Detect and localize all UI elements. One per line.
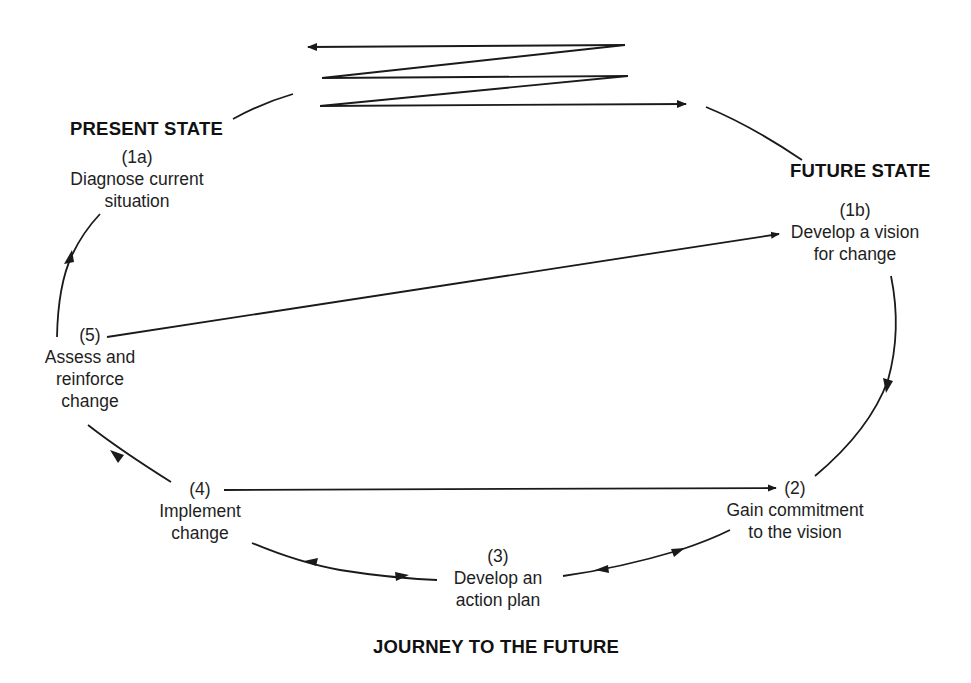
step-label-line: change: [150, 522, 250, 544]
arrow-5-to-1b: [107, 234, 779, 337]
step-1b-vision: (1b) Develop a vision for change: [780, 199, 930, 265]
journey-heading: JOURNEY TO THE FUTURE: [373, 636, 619, 658]
arc-1b-to-2: [815, 276, 896, 476]
arrowhead-icon: [671, 548, 685, 557]
step-5-assess: (5) Assess and reinforce change: [30, 324, 150, 412]
zigzag-transition-arrow: [308, 45, 686, 106]
arc-3-to-2: [563, 530, 730, 576]
step-label-line: Develop a vision: [780, 221, 930, 243]
future-state-heading: FUTURE STATE: [790, 160, 930, 182]
arc-4-to-3: [252, 543, 437, 580]
arrow-4-to-2: [224, 488, 776, 490]
step-label-line: for change: [780, 243, 930, 265]
step-2-commitment: (2) Gain commitment to the vision: [715, 477, 875, 543]
present-state-connector: [233, 94, 293, 119]
step-label-line: Diagnose current: [62, 168, 212, 190]
step-label-line: Develop an: [438, 567, 558, 589]
present-state-heading: PRESENT STATE: [70, 118, 223, 140]
step-label-line: to the vision: [715, 521, 875, 543]
step-3-action-plan: (3) Develop an action plan: [438, 545, 558, 611]
arc-4-to-5: [88, 425, 171, 482]
arrowhead-icon: [395, 572, 409, 581]
step-number: (1b): [780, 199, 930, 221]
step-4-implement: (4) Implement change: [150, 478, 250, 544]
step-number: (4): [150, 478, 250, 500]
step-1a-diagnose: (1a) Diagnose current situation: [62, 146, 212, 212]
step-number: (1a): [62, 146, 212, 168]
step-label-line: Gain commitment: [715, 499, 875, 521]
future-state-connector: [706, 107, 802, 160]
step-label-line: change: [30, 390, 150, 412]
step-label-line: action plan: [438, 589, 558, 611]
step-number: (3): [438, 545, 558, 567]
arc-5-to-1a: [57, 214, 100, 337]
step-label-line: Implement: [150, 500, 250, 522]
step-number: (5): [30, 324, 150, 346]
step-label-line: Assess and: [30, 346, 150, 368]
arrowhead-icon: [110, 450, 124, 463]
step-label-line: situation: [62, 190, 212, 212]
arrowhead-icon: [595, 565, 609, 573]
step-number: (2): [715, 477, 875, 499]
step-label-line: reinforce: [30, 368, 150, 390]
